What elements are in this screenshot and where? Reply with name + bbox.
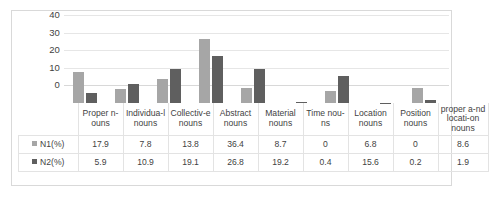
table-header-cell: proper a-nd locati-on nouns xyxy=(438,103,488,136)
table-cell: 19.2 xyxy=(258,154,303,172)
table-header-cell: Collectiv-e nouns xyxy=(168,103,213,136)
bar-n2 xyxy=(170,69,181,103)
table-cell: 7.8 xyxy=(123,136,168,154)
series-label-text: N2(%) xyxy=(40,157,64,167)
table-cell: 8.6 xyxy=(438,136,488,154)
table-header-cell: Abstract nouns xyxy=(213,103,258,136)
bar-n2 xyxy=(86,93,97,103)
table-header-cell: Time nou-ns xyxy=(303,103,348,136)
legend-swatch-icon xyxy=(32,141,37,146)
table-header-cell: Individua-l nouns xyxy=(123,103,168,136)
y-axis-tick-0: 0 xyxy=(34,81,60,91)
table-cell: 13.8 xyxy=(168,136,213,154)
table-cell: 1.9 xyxy=(438,154,488,172)
bar-n2 xyxy=(128,84,139,103)
series-label-text: N1(%) xyxy=(40,139,64,149)
bar-n2 xyxy=(338,76,349,103)
table-cell: 6.8 xyxy=(348,136,393,154)
table-body: N1(%)17.97.813.836.48.706.808.6N2(%)5.91… xyxy=(19,136,489,172)
y-axis-tick-40: 40 xyxy=(34,10,60,20)
table-cell: 36.4 xyxy=(213,136,258,154)
table-cell: 0 xyxy=(393,136,438,154)
bar-n1 xyxy=(115,89,126,103)
bar-group xyxy=(106,15,148,103)
series-legend-1: N1(%) xyxy=(19,136,79,154)
bar-n1 xyxy=(199,39,210,103)
bar-group xyxy=(358,15,400,103)
bar-n1 xyxy=(73,72,84,104)
table-cell: 0.2 xyxy=(393,154,438,172)
data-table: Proper n-ounsIndividua-l nounsCollectiv-… xyxy=(18,103,489,172)
table-cell: 8.7 xyxy=(258,136,303,154)
bar-group xyxy=(232,15,274,103)
bar-n1 xyxy=(241,88,252,103)
table-header-cell: Location nouns xyxy=(348,103,393,136)
table-corner-cell xyxy=(19,103,79,136)
plot-area: 40 30 20 10 0 xyxy=(12,15,453,103)
table-cell: 0.4 xyxy=(303,154,348,172)
chart-frame: 40 30 20 10 0 Proper n-ounsIndividua-l n… xyxy=(11,10,452,186)
legend-swatch-icon xyxy=(32,159,37,164)
bar-n1 xyxy=(157,79,168,103)
y-axis: 40 30 20 10 0 xyxy=(34,15,60,103)
bar-n2 xyxy=(254,69,265,103)
bar-group xyxy=(64,15,106,103)
table-cell: 15.6 xyxy=(348,154,393,172)
y-axis-tick-10: 10 xyxy=(34,63,60,73)
series-legend-2: N2(%) xyxy=(19,154,79,172)
bar-group xyxy=(190,15,232,103)
table-header-cell: Proper n-ouns xyxy=(78,103,123,136)
table-cell: 0 xyxy=(303,136,348,154)
y-axis-tick-20: 20 xyxy=(34,45,60,55)
table-header-row: Proper n-ounsIndividua-l nounsCollectiv-… xyxy=(19,103,489,136)
table-header-cell: Position nouns xyxy=(393,103,438,136)
bar-n1 xyxy=(325,91,336,103)
table-cell: 26.8 xyxy=(213,154,258,172)
bar-group xyxy=(400,15,447,103)
bar-group xyxy=(148,15,190,103)
table-cell: 17.9 xyxy=(78,136,123,154)
table-row: N2(%)5.910.919.126.819.20.415.60.21.9 xyxy=(19,154,489,172)
bar-n1 xyxy=(412,88,423,103)
y-axis-tick-30: 30 xyxy=(34,28,60,38)
table-row: N1(%)17.97.813.836.48.706.808.6 xyxy=(19,136,489,154)
bar-group xyxy=(274,15,316,103)
table-cell: 10.9 xyxy=(123,154,168,172)
table-cell: 5.9 xyxy=(78,154,123,172)
table-cell: 19.1 xyxy=(168,154,213,172)
table-header-cell: Material nouns xyxy=(258,103,303,136)
bar-n2 xyxy=(212,56,223,103)
bars-layer xyxy=(64,15,449,103)
bar-group xyxy=(316,15,358,103)
